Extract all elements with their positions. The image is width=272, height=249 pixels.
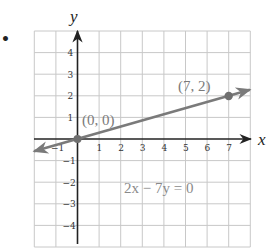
y-tick-label: −1	[63, 156, 76, 166]
y-tick-label: 4	[68, 48, 74, 58]
x-tick-label: 1	[97, 143, 103, 153]
x-tick-label: 5	[183, 143, 189, 153]
y-tick-label: −4	[63, 221, 77, 231]
x-tick-label: 7	[226, 143, 232, 153]
y-tick-label: −2	[63, 178, 76, 188]
point-label-7-2: (7, 2)	[178, 78, 211, 95]
x-axis-label: x	[257, 130, 266, 149]
point-7-2	[225, 92, 233, 100]
y-tick-label: 2	[68, 91, 74, 101]
x-tick-label: 2	[118, 143, 124, 153]
y-tick-label: 3	[68, 70, 74, 80]
x-tick-label: 3	[140, 143, 146, 153]
point-label-origin: (0, 0)	[82, 112, 115, 129]
y-tick-label: −3	[63, 199, 77, 209]
graph-figure: • x y −11234567 4321−1−2−3−4 (0, 0) (7, …	[0, 0, 272, 249]
y-axis-label: y	[68, 7, 78, 26]
x-tick-label: 4	[161, 143, 167, 153]
equation-label: 2x − 7y = 0	[124, 180, 193, 196]
item-bullet: •	[1, 31, 10, 47]
point-origin	[74, 135, 82, 143]
y-tick-label: 1	[68, 113, 74, 123]
x-tick-label: 6	[205, 143, 211, 153]
